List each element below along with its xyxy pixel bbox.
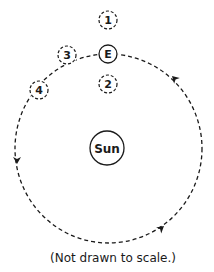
earth-position: E [99,45,117,63]
position-2-label: 2 [104,78,112,91]
position-1-label: 1 [104,14,112,27]
arrow-upper-right-icon [169,73,180,84]
position-4: 4 [30,81,48,99]
position-2: 2 [99,75,117,93]
position-4-label: 4 [35,84,43,97]
position-1: 1 [99,11,117,29]
caption: (Not drawn to scale.) [50,251,176,265]
sun-label: Sun [94,142,120,156]
sun: Sun [90,131,124,165]
arrow-left-icon [13,157,21,164]
position-3: 3 [58,46,76,64]
orbit-diagram: Sun E 1 2 3 4 (Not drawn to scale.) [0,0,214,272]
position-3-label: 3 [63,49,71,62]
earth-label: E [104,48,112,61]
